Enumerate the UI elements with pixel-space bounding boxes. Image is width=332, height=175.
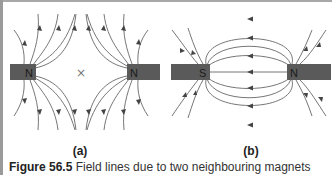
figure-frame: N N × [0, 0, 332, 175]
caption-text: Field lines due to two neighbouring magn… [76, 160, 311, 174]
panel-b-label: (b) [231, 144, 271, 158]
figure-caption: Figure 56.5 Field lines due to two neigh… [9, 160, 311, 174]
pole-label: S [199, 67, 206, 79]
neutral-point-marker: × [76, 66, 86, 80]
panel-a-label: (a) [60, 144, 100, 158]
pole-label: N [25, 67, 33, 79]
pole-label: N [130, 67, 138, 79]
figure-number: Figure 56.5 [9, 160, 72, 174]
field-lines-diagram: N N × [0, 0, 332, 145]
pole-label: N [290, 67, 298, 79]
